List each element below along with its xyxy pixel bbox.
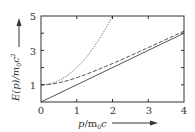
- svg-text:p/m0c: p/m0c: [78, 118, 107, 130]
- axis-ticks: [41, 16, 184, 102]
- x-tick-4: 4: [181, 105, 187, 116]
- curve-dotted: [41, 16, 113, 85]
- ylabel-sup: 2: [9, 53, 16, 57]
- y-arrow-icon: [17, 18, 22, 26]
- plot-frame: [41, 16, 184, 102]
- xlabel-slash-m: /m: [84, 118, 97, 129]
- y-tick-1: 1: [30, 80, 36, 91]
- x-tick-0: 0: [38, 105, 44, 116]
- x-tick-labels: 0 1 2 3 4: [38, 105, 187, 116]
- x-tick-2: 2: [110, 105, 116, 116]
- curve-dashed: [41, 31, 184, 85]
- y-tick-5: 5: [30, 11, 36, 22]
- svg-text:E(p)/m0c2: E(p)/m0c2: [9, 53, 22, 102]
- curve-solid: [41, 33, 184, 102]
- x-arrow-icon: [150, 121, 158, 126]
- y-tick-labels: 1 3 5: [30, 11, 36, 91]
- curves: [41, 16, 184, 102]
- xlabel-c: c: [101, 118, 107, 129]
- x-tick-3: 3: [146, 105, 152, 116]
- ylabel-main: E(p)/m: [10, 67, 21, 102]
- x-axis-label: p/m0c: [78, 118, 158, 130]
- energy-momentum-chart: 0 1 2 3 4 1 3 5 p/m0c E(p)/m0c2: [0, 0, 195, 132]
- y-tick-3: 3: [30, 46, 36, 57]
- y-axis-label: E(p)/m0c2: [9, 18, 22, 102]
- x-tick-1: 1: [74, 105, 80, 116]
